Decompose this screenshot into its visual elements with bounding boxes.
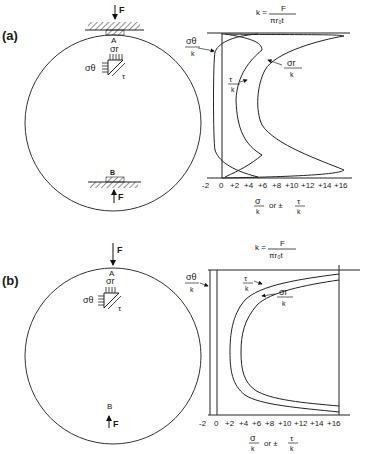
panel-a: (a) F A σr σθ τ: [2, 4, 352, 215]
svg-text:+4: +4: [239, 419, 249, 428]
force-bottom-a: F: [118, 192, 124, 202]
k-formula-lhs: k =: [255, 243, 266, 252]
tau-element-label: τ: [118, 304, 122, 313]
tau-label: τ: [229, 75, 233, 84]
svg-text:k: k: [251, 445, 255, 452]
svg-text:+8: +8: [265, 419, 275, 428]
sigma-r-label: σr: [287, 58, 296, 68]
force-top-a: F: [119, 5, 125, 15]
chart-b-labels: σθ k τ k σr k: [185, 272, 293, 307]
tau-label: τ: [244, 274, 248, 283]
chart-a-labels: σθ k τ k σr k: [185, 36, 302, 93]
k-formula-lhs: k =: [256, 8, 267, 17]
chart-b-xlabel: σ k or ± τ k: [249, 433, 298, 452]
tau-element-label: τ: [122, 72, 126, 81]
svg-text:+16: +16: [327, 419, 341, 428]
k-formula-numerator: F: [280, 239, 285, 248]
k-formula-denominator: πr₀t: [269, 251, 284, 260]
bearing-pad-icon: [106, 30, 124, 35]
svg-text:-2: -2: [199, 419, 207, 428]
bearing-pad-icon: [106, 177, 124, 182]
svg-text:or ±: or ±: [269, 201, 283, 210]
k-label: k: [191, 50, 195, 57]
k-label: k: [245, 285, 249, 292]
svg-text:+14: +14: [310, 419, 324, 428]
ring-b: [25, 268, 201, 444]
svg-text:+6: +6: [252, 419, 262, 428]
point-b-label: B: [110, 169, 115, 176]
svg-text:+6: +6: [258, 181, 268, 190]
svg-text:τ: τ: [297, 197, 301, 206]
sigma-theta-curve: [214, 34, 259, 177]
svg-text:τ: τ: [290, 434, 294, 443]
svg-text:σ: σ: [255, 196, 261, 206]
k-formula-denominator: πr₀t: [270, 16, 285, 25]
chart-a-ticks: -20+2 +4+6+8 +10+12+14 +16: [202, 181, 348, 190]
svg-text:+16: +16: [334, 181, 348, 190]
stress-element-b: σr σθ τ: [83, 276, 122, 313]
svg-text:k: k: [297, 208, 301, 215]
svg-text:+10: +10: [278, 419, 292, 428]
k-formula-b: k = F πr₀t: [255, 239, 296, 260]
svg-text:+2: +2: [230, 181, 240, 190]
k-label: k: [231, 86, 235, 93]
sigma-theta-element-label: σθ: [83, 295, 94, 305]
chart-a: [207, 33, 352, 178]
k-label: k: [190, 286, 194, 293]
force-top-b: F: [117, 245, 123, 255]
bottom-support-a: B F: [88, 169, 141, 203]
panel-a-label: (a): [2, 28, 18, 43]
svg-text:+10: +10: [285, 181, 299, 190]
k-formula-numerator: F: [281, 4, 286, 13]
panel-b-label: (b): [2, 273, 19, 288]
svg-text:0: 0: [219, 181, 224, 190]
k-formula-a: k = F πr₀t: [256, 4, 296, 25]
svg-text:+12: +12: [301, 181, 315, 190]
svg-text:+2: +2: [225, 419, 235, 428]
svg-text:+4: +4: [244, 181, 254, 190]
hatch-icon: [88, 22, 140, 30]
chart-a-xlabel: σ k or ± τ k: [254, 196, 305, 215]
top-support-a: F A: [85, 5, 144, 45]
k-label: k: [290, 71, 294, 78]
sigma-r-curve: [222, 34, 344, 178]
svg-text:+8: +8: [272, 181, 282, 190]
svg-text:+14: +14: [318, 181, 332, 190]
k-label: k: [282, 300, 286, 307]
point-b-label: B: [107, 402, 112, 411]
stress-element-a: σr σθ τ: [85, 44, 126, 81]
sigma-theta-element-label: σθ: [85, 63, 96, 73]
svg-text:k: k: [290, 445, 294, 452]
svg-text:k: k: [256, 208, 260, 215]
svg-text:σ: σ: [250, 433, 256, 443]
sigma-r-element-label: σr: [110, 44, 119, 54]
hatch-icon: [90, 182, 138, 188]
sigma-r-curve: [241, 280, 339, 406]
sigma-theta-label: σθ: [186, 272, 197, 282]
tau-curve: [225, 34, 262, 177]
sigma-theta-label: σθ: [186, 36, 197, 46]
sigma-r-element-label: σr: [106, 276, 115, 286]
force-bottom-b: F: [113, 419, 119, 429]
chart-b-ticks: -20+2 +4+6+8 +10+12+14 +16: [199, 419, 341, 428]
svg-text:or ±: or ±: [264, 439, 278, 448]
sigma-r-label: σr: [279, 287, 288, 297]
svg-text:+12: +12: [294, 419, 308, 428]
svg-text:0: 0: [214, 419, 219, 428]
svg-text:-2: -2: [202, 181, 210, 190]
panel-b: (b) F A σr σθ τ B F k = F πr₀t: [2, 239, 360, 452]
figure-canvas: (a) F A σr σθ τ: [0, 0, 366, 454]
